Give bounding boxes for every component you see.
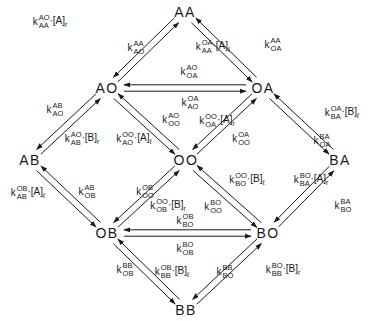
rate-subscript: AB	[71, 139, 82, 147]
rate-symbol: k	[155, 267, 160, 277]
side-subscript: ℓ	[43, 192, 45, 199]
rate-indices: BBBO	[223, 264, 234, 280]
rate-subscript: BA	[300, 180, 311, 188]
concentration-text: ·[B]	[168, 199, 184, 210]
rate-label-k-ob-ab: kABOB	[79, 184, 96, 200]
rate-subscript: AO	[134, 48, 145, 56]
rate-symbol: k	[199, 116, 204, 126]
rate-subscript: AA	[202, 47, 213, 55]
rate-subscript: AO	[53, 110, 64, 118]
concentration-term: ·[A]r	[49, 15, 67, 26]
rate-symbol: k	[294, 175, 299, 185]
concentration-term: ·[B]ℓ	[342, 106, 360, 117]
state-node-ob: OB	[95, 226, 118, 240]
rate-subscript: BB	[161, 272, 172, 280]
rate-symbol: k	[33, 17, 38, 27]
state-node-oa: OA	[251, 81, 274, 95]
state-node-aa: AA	[174, 5, 196, 19]
rate-subscript: OB	[183, 249, 194, 257]
rate-symbol: k	[182, 98, 187, 108]
rate-symbol: k	[232, 134, 237, 144]
state-node-oo: OO	[174, 153, 199, 167]
rate-indices: BOOB	[183, 241, 194, 257]
rate-indices: OAOO	[238, 131, 250, 147]
concentration-term: ·[B]r	[81, 132, 99, 143]
rate-label-k-oo-bo: kBOOO	[204, 199, 222, 215]
rate-indices: OBBB	[161, 264, 172, 280]
rate-indices: AAAO	[134, 40, 145, 56]
rate-symbol: k	[65, 134, 70, 144]
rate-indices: OBBO	[183, 213, 194, 229]
rate-symbol: k	[325, 108, 330, 118]
rate-symbol: k	[204, 202, 209, 212]
rate-label-k-ba-oa: kOABA·[B]ℓ	[325, 105, 360, 121]
rate-symbol: k	[314, 136, 319, 146]
rate-label-k-bb-bo: kBOBB·[B]r	[266, 262, 301, 278]
rate-label-k-aa-oa: kOAAA·[A]ℓ	[196, 39, 231, 55]
rate-symbol: k	[116, 134, 121, 144]
rate-subscript: OO	[210, 207, 222, 215]
rate-indices: BOBB	[272, 262, 283, 278]
rate-symbol: k	[177, 216, 182, 226]
rate-label-k-oo-oa: kOAOO	[232, 131, 250, 147]
rate-symbol: k	[79, 187, 84, 197]
rate-subscript: OA	[271, 45, 282, 53]
rate-label-k-bo-bb: kBBBO	[217, 264, 234, 280]
state-node-bo: BO	[256, 226, 279, 240]
rate-label-k-ao-oa: kOAAO	[182, 95, 199, 111]
concentration-text: ·[A]	[213, 40, 229, 51]
concentration-term: ·[A]ℓ	[134, 132, 152, 143]
rate-symbol: k	[335, 201, 340, 211]
rate-symbol: k	[136, 187, 141, 197]
rate-label-k-oa-ao: kAOOA	[181, 64, 198, 80]
state-node-ab: AB	[19, 153, 41, 167]
rate-symbol: k	[117, 265, 122, 275]
concentration-term: ·[A]ℓ	[28, 186, 46, 197]
rate-subscript: BB	[272, 270, 283, 278]
rate-indices: ABAO	[53, 102, 64, 118]
rate-indices: OOBO	[235, 172, 247, 188]
rate-indices: AOOA	[187, 64, 198, 80]
side-subscript: ℓ	[149, 138, 151, 145]
rate-label-k-ao-aa: kAAAO	[128, 40, 145, 56]
rate-indices: BAOA	[320, 133, 331, 149]
concentration-term: ·[A]r	[217, 114, 235, 125]
side-subscript: r	[65, 21, 67, 28]
concentration-term: ·[B]r	[168, 199, 186, 210]
rate-label-k-ob-bo: kBOOB	[177, 241, 194, 257]
concentration-term: ·[A]ℓ	[213, 40, 231, 51]
concentration-term: ·[B]ℓ	[247, 173, 265, 184]
side-subscript: r	[298, 269, 300, 276]
side-subscript: r	[97, 138, 99, 145]
rate-label-k-ab-ao: kAOAB·[B]r	[65, 131, 100, 147]
rate-label-k-ob-bb: kBBOB	[117, 262, 134, 278]
rate-label-k-ab-ob: kOBAB·[A]ℓ	[11, 185, 46, 201]
rate-subscript: OO	[168, 120, 180, 128]
rate-subscript: OA	[320, 141, 331, 149]
rate-symbol: k	[47, 105, 52, 115]
rate-symbol: k	[177, 244, 182, 254]
rate-subscript: BA	[331, 113, 342, 121]
side-subscript: ℓ	[228, 46, 230, 53]
concentration-term: ·[A]r	[310, 173, 328, 184]
rate-indices: OAAO	[188, 95, 199, 111]
rate-label-k-oa-aa: kAAOA	[265, 37, 282, 53]
rate-label-k-bo-ob: kOBBO	[177, 213, 194, 229]
rate-indices: OBAB	[17, 185, 28, 201]
state-node-ao: AO	[95, 81, 118, 95]
kinetic-scheme-diagram: AAAOOAABOOBAOBBOBB kAOAA·[A]rkAAAOkOAAA·…	[0, 0, 375, 321]
concentration-text: ·[A]	[310, 173, 326, 184]
side-subscript: ℓ	[262, 179, 264, 186]
rate-label-k-ao-ab: kABAO	[47, 102, 64, 118]
rate-label-k-oa-oo: kOOOA·[A]r	[199, 113, 235, 129]
side-subscript: ℓ	[357, 112, 359, 119]
rate-subscript: OB	[156, 206, 168, 214]
concentration-text: ·[B]	[172, 265, 188, 276]
rate-subscript: AA	[39, 22, 50, 30]
rate-indices: AOOO	[168, 112, 180, 128]
rate-subscript: BO	[183, 221, 194, 229]
rate-indices: AOAB	[71, 131, 82, 147]
rate-label-k-ao-oo: kOOAO·[A]ℓ	[116, 131, 152, 147]
rate-subscript: BO	[235, 180, 247, 188]
rate-subscript: AO	[188, 103, 199, 111]
